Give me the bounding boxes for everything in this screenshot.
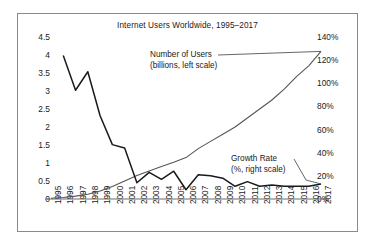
annotation-users-line1: Number of Users	[150, 50, 217, 61]
series-line-number-of-users	[51, 51, 321, 198]
plot-area	[18, 14, 359, 233]
leader-line-number-of-users	[218, 51, 321, 55]
annotation-number-of-users: Number of Users (billions, left scale)	[150, 50, 217, 71]
annotation-growth-line2: (%, right scale)	[231, 165, 286, 176]
annotation-users-line2: (billions, left scale)	[150, 61, 217, 72]
leader-line-growth-rate	[294, 159, 321, 184]
annotation-growth-line1: Growth Rate	[231, 154, 286, 165]
annotation-growth-rate: Growth Rate (%, right scale)	[231, 154, 286, 175]
chart-figure: Internet Users Worldwide, 1995–2017 00.5…	[17, 13, 358, 232]
